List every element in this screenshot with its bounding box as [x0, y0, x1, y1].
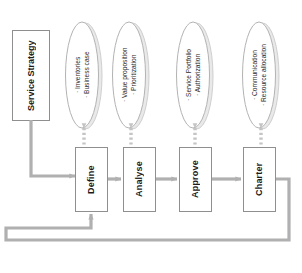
diagram-canvas: Service Strategy · Inventories · Busines… [0, 0, 302, 273]
stage-box-charter[interactable] [244, 148, 276, 212]
input-ellipse-1[interactable] [66, 22, 99, 128]
input-ellipse-2[interactable] [113, 22, 146, 128]
stage-box-define[interactable] [76, 148, 108, 212]
diagram-shapes [0, 0, 302, 273]
stage-box-approve[interactable] [180, 148, 212, 212]
connector-strategy-to-define [31, 120, 75, 176]
service-strategy-box[interactable] [13, 31, 50, 121]
input-ellipse-3[interactable] [177, 22, 210, 128]
input-ellipse-4[interactable] [243, 22, 276, 128]
stage-box-analyse[interactable] [124, 148, 156, 212]
